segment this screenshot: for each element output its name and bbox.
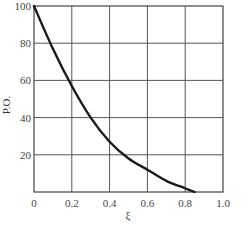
y-tick-labels: 20406080100 — [15, 0, 32, 161]
grid-lines — [34, 6, 223, 192]
plot-frame — [34, 6, 223, 192]
x-tick-label: 0 — [31, 197, 37, 209]
y-axis-label: P.O. — [0, 96, 12, 115]
x-tick-label: 0.6 — [141, 197, 155, 209]
data-curve — [34, 6, 195, 192]
y-tick-label: 80 — [20, 37, 32, 49]
x-tick-labels: 00.20.40.60.81.0 — [31, 197, 230, 209]
x-tick-label: 0.8 — [178, 197, 192, 209]
x-axis-label: ξ — [126, 209, 131, 222]
y-tick-label: 20 — [20, 149, 32, 161]
x-tick-label: 0.2 — [65, 197, 79, 209]
y-tick-label: 100 — [15, 0, 32, 12]
y-tick-label: 40 — [20, 112, 32, 124]
chart: 00.20.40.60.81.0 20406080100 ξ P.O. — [0, 0, 246, 225]
x-tick-label: 1.0 — [216, 197, 230, 209]
x-tick-label: 0.4 — [103, 197, 117, 209]
y-tick-label: 60 — [20, 74, 32, 86]
